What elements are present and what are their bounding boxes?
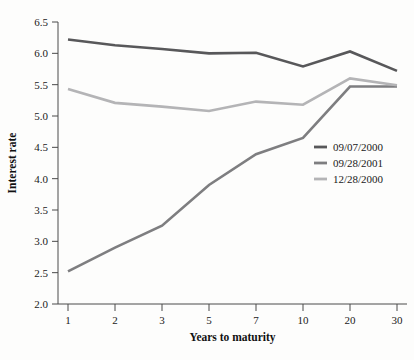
legend-label-1[interactable]: 09/07/2000 (333, 141, 384, 153)
y-tick-label: 5.5 (34, 79, 48, 91)
x-axis-title: Years to maturity (189, 331, 275, 344)
x-tick-label: 1 (65, 314, 71, 326)
interest-rate-line-chart: 2.02.53.03.54.04.55.05.56.06.5 123571020… (0, 0, 414, 360)
y-tick-label: 4.5 (34, 141, 48, 153)
y-axis-title: Interest rate (6, 133, 18, 194)
x-tick-label: 5 (206, 314, 212, 326)
x-tick-label: 7 (253, 314, 259, 326)
y-tick-label: 4.0 (34, 173, 48, 185)
x-tick-label: 20 (345, 314, 357, 326)
y-tick-label: 5.0 (34, 110, 48, 122)
y-tick-label: 2.0 (34, 298, 48, 310)
y-axis-group: 2.02.53.03.54.04.55.05.56.06.5 (34, 16, 58, 310)
y-tick-label: 3.0 (34, 235, 48, 247)
y-tick-label: 6.5 (34, 16, 48, 28)
x-tick-label: 10 (298, 314, 310, 326)
chart-canvas: 2.02.53.03.54.04.55.05.56.06.5 123571020… (0, 0, 414, 360)
legend-label-2[interactable]: 09/28/2001 (333, 157, 383, 169)
x-axis-group: 12357102030 (58, 304, 407, 326)
y-tick-label: 2.5 (34, 267, 48, 279)
x-tick-label: 3 (159, 314, 165, 326)
legend-label-3[interactable]: 12/28/2000 (333, 173, 384, 185)
series-group (68, 40, 397, 272)
series-line-3 (68, 78, 397, 111)
y-tick-label: 3.5 (34, 204, 48, 216)
series-line-1 (68, 40, 397, 71)
x-tick-label: 30 (392, 314, 404, 326)
y-tick-label: 6.0 (34, 47, 48, 59)
legend-group: 09/07/200009/28/200112/28/2000 (314, 141, 384, 185)
x-tick-label: 2 (112, 314, 118, 326)
